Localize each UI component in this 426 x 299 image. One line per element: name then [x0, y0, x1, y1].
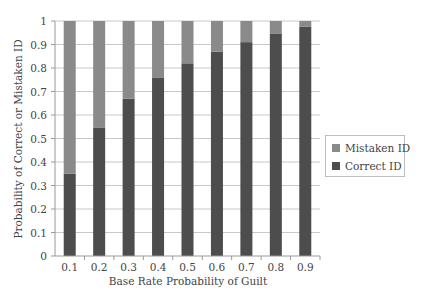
- bar-segment-mistaken-id: [64, 21, 76, 174]
- bar-segment-correct-id: [270, 34, 282, 256]
- legend-item-correct: Correct ID: [332, 160, 402, 172]
- x-tick-label: 0.5: [179, 261, 196, 273]
- y-tick-label: 0.4: [30, 156, 47, 168]
- bar-segment-correct-id: [182, 63, 194, 256]
- bar-segment-mistaken-id: [299, 21, 311, 27]
- correct-swatch-icon: [332, 162, 340, 170]
- bars: [64, 21, 312, 256]
- x-tick-label: 0.6: [209, 261, 226, 273]
- legend: Mistaken ID Correct ID: [325, 135, 405, 177]
- mistaken-swatch-icon: [332, 144, 340, 152]
- y-tick-label: 0.5: [30, 133, 47, 145]
- x-tick-label: 0.9: [297, 261, 314, 273]
- bar-segment-mistaken-id: [240, 21, 252, 42]
- x-tick-label: 0.7: [238, 261, 255, 273]
- bar-segment-correct-id: [123, 99, 135, 256]
- y-axis-ticks: 00.10.20.30.40.50.60.70.80.91: [30, 15, 55, 262]
- bar-segment-correct-id: [64, 174, 76, 256]
- bar-segment-correct-id: [152, 77, 164, 256]
- legend-label-mistaken: Mistaken ID: [345, 142, 410, 154]
- x-tick-label: 0.2: [91, 261, 108, 273]
- x-axis-title: Base Rate Probability of Guilt: [109, 275, 268, 287]
- bar-segment-mistaken-id: [123, 21, 135, 99]
- x-tick-label: 0.4: [150, 261, 167, 273]
- bar-segment-correct-id: [211, 52, 223, 256]
- y-tick-label: 0: [40, 250, 47, 262]
- y-tick-label: 0.6: [30, 109, 47, 121]
- bar-segment-correct-id: [299, 27, 311, 256]
- x-tick-label: 0.3: [120, 261, 137, 273]
- y-tick-label: 0.9: [30, 39, 47, 51]
- bar-segment-mistaken-id: [182, 21, 194, 63]
- x-tick-label: 0.1: [61, 261, 78, 273]
- y-tick-label: 0.2: [30, 203, 47, 215]
- y-tick-label: 0.7: [30, 86, 47, 98]
- x-tick-label: 0.8: [267, 261, 284, 273]
- bar-segment-mistaken-id: [270, 21, 282, 34]
- bar-segment-correct-id: [93, 128, 105, 256]
- x-axis-ticks: 0.10.20.30.40.50.60.70.80.9: [61, 256, 320, 273]
- bar-segment-mistaken-id: [93, 21, 105, 128]
- legend-item-mistaken: Mistaken ID: [332, 142, 410, 154]
- y-tick-label: 0.8: [30, 62, 47, 74]
- legend-label-correct: Correct ID: [345, 160, 402, 172]
- y-axis-title: Probability of Correct or Mistaken ID: [12, 39, 24, 238]
- bar-segment-correct-id: [240, 42, 252, 256]
- y-tick-label: 0.1: [30, 227, 47, 239]
- y-tick-label: 1: [40, 15, 47, 27]
- bar-segment-mistaken-id: [211, 21, 223, 52]
- y-tick-label: 0.3: [30, 180, 47, 192]
- bar-segment-mistaken-id: [152, 21, 164, 77]
